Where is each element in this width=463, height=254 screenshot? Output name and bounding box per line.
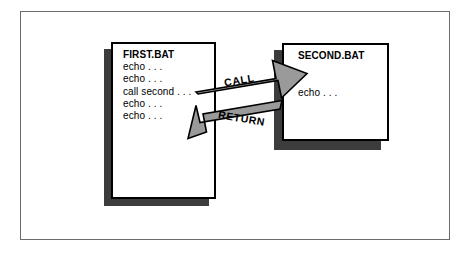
diagram-canvas: FIRST.BAT echo . . . echo . . . call sec…: [0, 0, 463, 254]
first-bat-title: FIRST.BAT: [123, 49, 210, 61]
first-bat-line-3: call second . . .: [123, 86, 210, 98]
first-bat-document[interactable]: FIRST.BAT echo . . . echo . . . call sec…: [111, 42, 216, 199]
first-bat-line-2: echo . . .: [123, 73, 210, 85]
figure-frame: FIRST.BAT echo . . . echo . . . call sec…: [20, 11, 450, 240]
first-bat-line-5: echo . . .: [123, 110, 210, 122]
second-bat-line-1: echo . . .: [298, 87, 383, 99]
second-bat-document[interactable]: SECOND.BAT echo . . .: [282, 43, 389, 141]
first-bat-line-4: echo . . .: [123, 98, 210, 110]
second-bat-blank-2: [298, 74, 383, 86]
second-bat-blank-1: [298, 62, 383, 74]
first-bat-line-1: echo . . .: [123, 61, 210, 73]
second-bat-title: SECOND.BAT: [298, 50, 383, 62]
first-bat-code-block: FIRST.BAT echo . . . echo . . . call sec…: [123, 49, 210, 122]
second-bat-code-block: SECOND.BAT echo . . .: [298, 50, 383, 99]
